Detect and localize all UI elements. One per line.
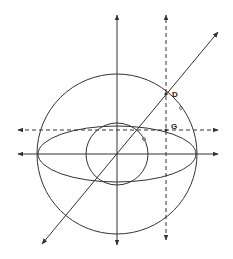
label-d: D: [172, 90, 178, 99]
diagonal-axis: [42, 32, 218, 244]
geometry-diagram: D G: [0, 0, 233, 259]
point-d: [164, 92, 167, 95]
point-g: [164, 128, 167, 131]
label-g: G: [171, 122, 177, 131]
